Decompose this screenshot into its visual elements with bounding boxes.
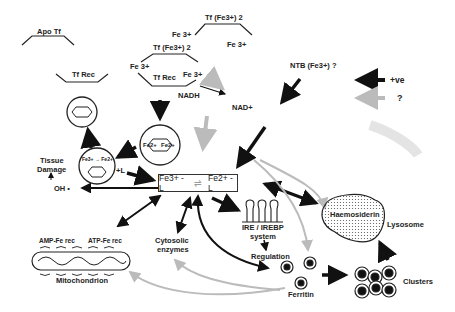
clusters-haemosiderin-arrow — [380, 243, 388, 260]
oh-radical-label: OH • — [54, 185, 70, 193]
plus-l-arrow — [127, 173, 153, 180]
regulation-label: Regulation — [251, 253, 290, 261]
endosome-conversion — [79, 148, 115, 184]
fe2-right-label: Fe2+ — [161, 142, 175, 148]
haemosiderin-label: Haemosiderin — [329, 211, 381, 219]
tf-rec-label: Tf Rec — [72, 71, 95, 79]
equilibrium-arrow-icon: ⇌ — [194, 178, 202, 188]
fe3-c-label: Fe 3+ — [130, 63, 149, 71]
ferritin-label: Ferritin — [288, 291, 314, 299]
plus-l-label: +L — [116, 167, 125, 175]
ntb-arrow — [282, 79, 300, 102]
nad-label: NAD+ — [232, 104, 253, 112]
grey-down-arrow — [203, 116, 207, 148]
ire-stem-loops — [242, 200, 283, 222]
system-label: system — [250, 233, 276, 241]
cytosolic-label: Cytosolic — [155, 237, 189, 245]
enzymes-label: enzymes — [157, 246, 189, 254]
legend-positive-label: +ve — [390, 76, 404, 85]
fe2-left-label: Fe2+ — [143, 142, 157, 148]
apo-tf-shape — [22, 36, 74, 45]
amp-fe-rec-label: AMP-Fe rec — [39, 238, 75, 245]
fe3-d-label: Fe 3+ — [183, 71, 202, 79]
fe2-l-label: Fe2+ - L — [208, 173, 237, 193]
pool-ire-arrow — [212, 198, 238, 210]
ire-regulation-arrow — [264, 240, 266, 250]
damage-label: Damage — [37, 166, 66, 174]
fe3-a-label: Fe 3+ — [172, 31, 191, 39]
tf-fe-top-label: Tf (Fe3+) 2 — [205, 14, 243, 22]
tissue-label: Tissue — [40, 157, 64, 165]
grey-faded-arrow — [370, 125, 418, 155]
grey-enzymes-arrow — [175, 260, 280, 290]
mitochondrion-label: Mitochondrion — [56, 277, 108, 285]
grey-haemo-arrow — [260, 160, 325, 208]
endosome-to-conversion-arrow — [118, 147, 136, 157]
tf-fe-top-shape — [195, 24, 252, 35]
tf-rec-bound-label: Tf Rec — [153, 74, 176, 82]
lysosome-label: Lysosome — [387, 221, 424, 229]
grey-mito-arrow — [130, 272, 285, 294]
clusters-label: Clusters — [403, 278, 433, 286]
conversion-to-vesicle-arrow — [88, 130, 91, 148]
grey-tf-arrow — [210, 78, 222, 88]
apo-tf-label: Apo Tf — [37, 28, 61, 36]
fe3-l-label: Fe3+ - L — [159, 173, 188, 193]
pool-mito-arrow — [118, 196, 160, 226]
ntb-label: NTB (Fe3+) ? — [290, 62, 336, 70]
ferritin-clusters — [355, 266, 396, 298]
ire-irebp-label: IRE / IREBP — [242, 224, 284, 232]
legend-unknown-label: ? — [397, 94, 403, 103]
nadh-label: NADH — [178, 92, 200, 100]
fe-conversion-label: Fe3+ → Fe2+ — [82, 157, 113, 162]
tf-fe-mid-label: Tf (Fe3+) 2 — [153, 44, 191, 52]
pool-enzymes-arrow — [178, 198, 190, 232]
iron-pool-box: Fe3+ - L ⇌ Fe2+ - L — [158, 174, 238, 192]
fe3-b-label: Fe 3+ — [227, 41, 246, 49]
atp-fe-rec-label: ATP-Fe rec — [88, 238, 122, 245]
ferritin-particles — [281, 257, 316, 289]
mitochondrion-shape — [32, 247, 130, 276]
